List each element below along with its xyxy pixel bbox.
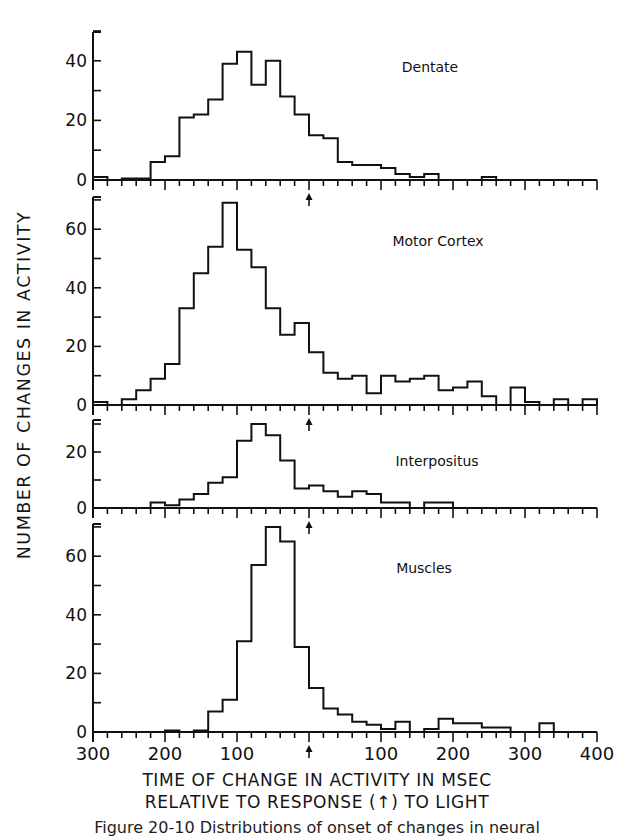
figure-caption: Figure 20-10 Distributions of onset of c…: [0, 818, 634, 837]
x-tick-label: 400: [580, 743, 614, 764]
panel-label: Muscles: [396, 560, 452, 576]
panel-dentate: 02040Dentate: [65, 31, 597, 206]
y-tick-label: 40: [65, 605, 87, 625]
y-tick-label: 40: [65, 51, 87, 71]
panel-label: Dentate: [402, 59, 458, 75]
histogram-steps: [93, 424, 597, 508]
panel-label: Motor Cortex: [392, 233, 483, 249]
x-tick-label: 200: [436, 743, 470, 764]
y-tick-label: 60: [65, 546, 87, 566]
y-tick-label: 20: [65, 663, 87, 683]
y-tick-label: 0: [76, 170, 87, 190]
panel-muscles: 0204060Muscles: [65, 524, 597, 758]
y-tick-label: 60: [65, 219, 87, 239]
x-axis-label-line2: RELATIVE TO RESPONSE (↑) TO LIGHT: [0, 792, 634, 812]
y-tick-label: 20: [65, 442, 87, 462]
x-tick-label: 300: [76, 743, 110, 764]
histogram-steps: [93, 527, 597, 732]
y-tick-label: 0: [76, 498, 87, 518]
histogram-steps: [93, 52, 597, 180]
panel-interpositus: 020Interpositus: [65, 420, 597, 534]
y-tick-label: 20: [65, 336, 87, 356]
y-tick-label: 0: [76, 395, 87, 415]
panel-label: Interpositus: [395, 453, 478, 469]
x-tick-label: 100: [364, 743, 398, 764]
y-axis-label: NUMBER OF CHANGES IN ACTIVITY: [6, 160, 42, 610]
x-tick-label: 100: [220, 743, 254, 764]
y-axis-label-text: NUMBER OF CHANGES IN ACTIVITY: [14, 211, 34, 559]
y-tick-label: 20: [65, 110, 87, 130]
x-tick-label: 200: [148, 743, 182, 764]
x-tick-label: 300: [508, 743, 542, 764]
panel-motor-cortex: 0204060Motor Cortex: [65, 197, 597, 431]
y-tick-label: 40: [65, 278, 87, 298]
y-tick-label: 0: [76, 722, 87, 742]
histogram-steps: [93, 203, 597, 405]
x-axis-label-line1: TIME OF CHANGE IN ACTIVITY IN MSEC: [0, 770, 634, 790]
